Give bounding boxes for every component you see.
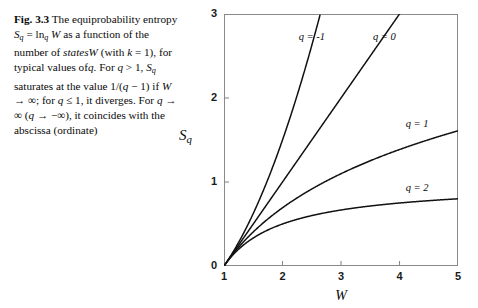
curve-paths: [224, 14, 458, 266]
figure-caption: Fig. 3.3 The equiprobability entropy Sq …: [14, 12, 179, 137]
curve-label-q-minus-1: q = -1: [299, 31, 325, 42]
curve-q-1: [224, 131, 458, 266]
ytick-label-2: 2: [197, 91, 217, 103]
xtick-label-5: 5: [450, 270, 466, 282]
y-axis-title-subscript: q: [187, 133, 192, 145]
curve-q-2: [224, 199, 458, 266]
curve-q-0: [224, 14, 400, 266]
chart-plot-area: 3 2 1 0 1 2 3 4 5 W Sq q = -1 q = 0 q = …: [224, 14, 458, 266]
ytick-label-0: 0: [197, 259, 217, 271]
y-axis-title: Sq: [179, 127, 192, 145]
xtick-label-2: 2: [275, 270, 291, 282]
chart-curves: [224, 14, 458, 266]
xtick-label-3: 3: [333, 270, 349, 282]
caption-text: The equiprobability entropy Sq = lnq W a…: [14, 13, 177, 136]
ytick-label-1: 1: [197, 175, 217, 187]
figure-root: Fig. 3.3 The equiprobability entropy Sq …: [0, 0, 478, 308]
ytick-label-3: 3: [197, 7, 217, 19]
xtick-label-4: 4: [392, 270, 408, 282]
x-axis-title: W: [326, 288, 356, 304]
curve-label-q-1: q = 1: [406, 118, 429, 129]
xtick-label-1: 1: [216, 270, 232, 282]
curve-label-q-2: q = 2: [406, 182, 429, 193]
curve-label-q-0: q = 0: [373, 31, 396, 42]
figure-number: Fig. 3.3: [14, 13, 49, 25]
axis-ticks: [224, 14, 458, 266]
y-axis-title-symbol: S: [179, 127, 187, 143]
